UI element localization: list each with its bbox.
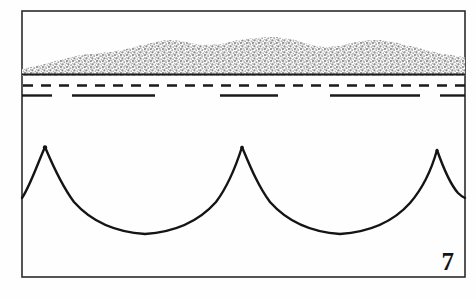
figure-number: 7: [442, 249, 455, 274]
curve-peak-marker: [43, 145, 47, 149]
curve-peak-marker: [240, 146, 244, 150]
figure-container: 7: [0, 0, 476, 298]
figure-drawing: [0, 0, 476, 298]
curve-peak-marker: [435, 149, 438, 152]
